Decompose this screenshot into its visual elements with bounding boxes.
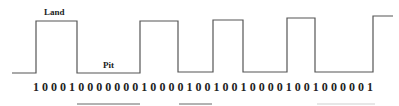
pit-land-waveform	[12, 16, 393, 73]
channel-bit-string: 10001000000010000100100100001001000001	[33, 80, 373, 94]
pit-label: Pit	[103, 60, 114, 70]
land-label: Land	[44, 7, 65, 17]
pit-land-eft-diagram: Land Pit 1000100000001000010010010000100…	[0, 0, 399, 106]
